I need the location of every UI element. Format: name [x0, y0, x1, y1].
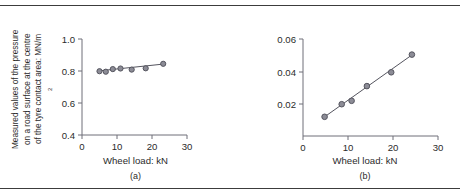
plot-area-b: 0.06 0.04 0.02 0 10 20 30 [270, 8, 460, 153]
x-tick-label-a-2: 10 [112, 141, 123, 152]
x-tick-label-b-4: 30 [433, 142, 444, 153]
y-axis-label-a-line1: Measured values of the pressure [10, 14, 22, 164]
x-tick-label-b-2: 10 [343, 142, 354, 153]
data-point [409, 52, 415, 58]
data-point [339, 101, 345, 107]
data-point [97, 69, 102, 74]
data-points-a [97, 61, 166, 74]
data-point [110, 67, 115, 72]
data-point [143, 66, 148, 71]
y-axis-ticks-a [78, 39, 82, 135]
data-point [118, 66, 123, 71]
panel-caption-a: (a) [48, 171, 223, 181]
plot-area-a: 1.0 0.8 0.6 0.4 0 10 20 30 [48, 8, 223, 153]
chart-panel-b: Measured values of the vertical stress o… [230, 8, 460, 188]
x-axis-ticks-b [303, 136, 438, 140]
x-axis-label-a: Wheel load: kN [48, 155, 223, 166]
x-tick-label-a-3: 20 [147, 141, 158, 152]
data-point [388, 70, 394, 76]
y-tick-label-a-2: 0.6 [62, 98, 75, 109]
x-tick-label-a-1: 0 [79, 141, 84, 152]
y-tick-label-a-3: 0.8 [62, 66, 75, 77]
data-point [349, 98, 355, 104]
data-point [364, 83, 370, 89]
panel-caption-b: (b) [270, 171, 460, 181]
y-tick-label-a-4: 1.0 [62, 34, 75, 45]
chart-panel-a: Measured values of the pressure on a roa… [0, 8, 230, 188]
x-tick-label-a-4: 30 [182, 141, 193, 152]
x-axis-ticks-a [82, 135, 187, 139]
y-tick-label-a-1: 0.4 [62, 130, 76, 141]
x-tick-labels-b: 0 10 20 30 [300, 142, 443, 153]
top-divider-rule [0, 5, 460, 6]
x-tick-label-b-1: 0 [300, 142, 305, 153]
y-axis-ticks-b [299, 39, 303, 104]
plot-svg-a: 1.0 0.8 0.6 0.4 0 10 20 30 [48, 8, 223, 153]
x-axis-label-b: Wheel load: kN [270, 155, 460, 166]
data-point [161, 61, 166, 66]
y-tick-labels-a: 1.0 0.8 0.6 0.4 [62, 34, 76, 141]
plot-svg-b: 0.06 0.04 0.02 0 10 20 30 [270, 8, 460, 153]
data-point [322, 114, 328, 120]
axis-lines-b [303, 39, 438, 136]
y-tick-label-b-2: 0.04 [277, 67, 296, 78]
x-tick-labels-a: 0 10 20 30 [79, 141, 192, 152]
data-point [103, 69, 108, 74]
data-point [129, 67, 134, 72]
y-tick-label-b-1: 0.02 [277, 99, 296, 110]
y-tick-label-b-3: 0.06 [277, 34, 296, 45]
y-axis-label-a-line2: on a road surface at the centre [22, 14, 34, 164]
bottom-divider-rule [0, 188, 460, 189]
axis-lines-a [82, 39, 187, 135]
x-tick-label-b-3: 20 [388, 142, 399, 153]
y-tick-labels-b: 0.06 0.04 0.02 [277, 34, 296, 110]
